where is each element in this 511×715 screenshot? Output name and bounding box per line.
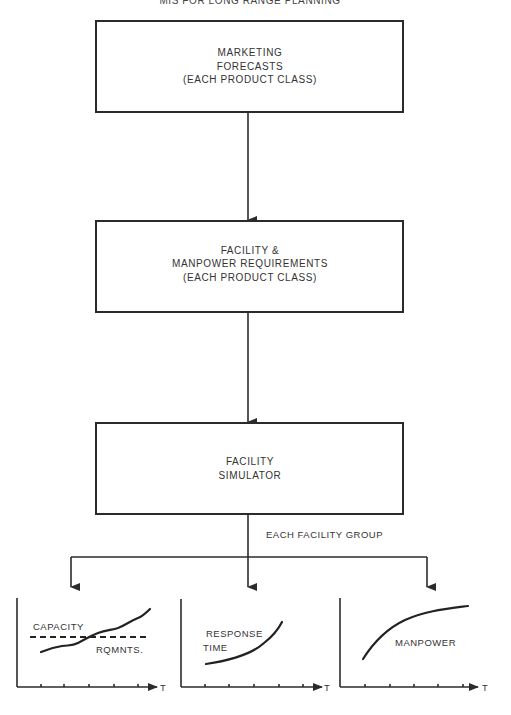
manpower-graph: T MANPOWER [340,598,488,693]
box-line: FACILITY & [221,245,280,256]
diagram-title: MIS FOR LONG RANGE PLANNING [159,0,340,6]
box-line: (EACH PRODUCT CLASS) [183,272,317,283]
response-time-graph: T RESPONSE TIME [181,599,330,693]
box-line: FORECASTS [217,61,284,72]
branch-label: EACH FACILITY GROUP [266,529,383,540]
facility-simulator-box: FACILITY SIMULATOR [96,423,403,514]
requirements-label: RQMNTS. [96,644,143,655]
manpower-label: MANPOWER [395,637,456,648]
time-axis-label: T [482,682,488,693]
facility-manpower-requirements-box: FACILITY & MANPOWER REQUIREMENTS (EACH P… [96,221,403,312]
manpower-curve [363,606,468,659]
box-line: FACILITY [226,456,274,467]
box-line: MARKETING [218,47,283,58]
capacity-label: CAPACITY [33,621,84,632]
capacity-graph: T CAPACITY RQMNTS. [17,598,166,693]
response-label: RESPONSE [206,628,263,639]
time-label: TIME [203,642,228,653]
box-line: MANPOWER REQUIREMENTS [172,258,328,269]
marketing-forecasts-box: MARKETING FORECASTS (EACH PRODUCT CLASS) [96,21,403,112]
time-axis-label: T [324,682,330,693]
flow-diagram: MIS FOR LONG RANGE PLANNING MARKETING FO… [0,0,511,715]
time-axis-label: T [160,682,166,693]
box-line: SIMULATOR [219,470,282,481]
box-line: (EACH PRODUCT CLASS) [183,74,317,85]
